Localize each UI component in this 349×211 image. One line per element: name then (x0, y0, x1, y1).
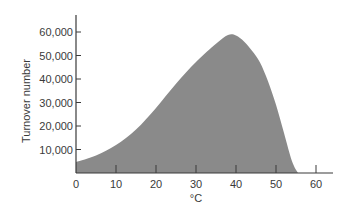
y-axis-title: Turnover number (20, 59, 32, 143)
y-tick-label: 40,000 (39, 73, 73, 85)
y-tick-label: 20,000 (39, 120, 73, 132)
y-tick-label: 60,000 (39, 26, 73, 38)
y-tick-label: 30,000 (39, 97, 73, 109)
y-axis: 10,00020,00030,00040,00050,00060,000 (39, 15, 81, 173)
y-tick-label: 10,000 (39, 144, 73, 156)
turnover-area (76, 34, 298, 173)
x-tick-label: 30 (190, 178, 202, 190)
chart: 10,00020,00030,00040,00050,00060,000 010… (0, 0, 349, 211)
y-tick-label: 50,000 (39, 50, 73, 62)
x-tick-label: 0 (73, 178, 79, 190)
x-axis-title: °C (190, 192, 202, 204)
x-tick-label: 60 (310, 178, 322, 190)
x-tick-label: 50 (270, 178, 282, 190)
x-tick-label: 40 (230, 178, 242, 190)
x-tick-label: 20 (150, 178, 162, 190)
x-tick-label: 10 (110, 178, 122, 190)
